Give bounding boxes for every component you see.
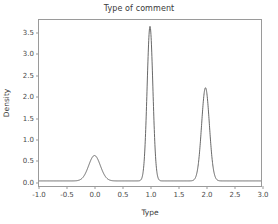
x-axis-label: Type [38, 208, 262, 217]
x-tick-mark [263, 186, 264, 189]
chart-title: Type of comment [0, 4, 278, 13]
x-tick-mark [151, 186, 152, 189]
x-tick-mark [179, 186, 180, 189]
y-tick-mark [36, 97, 39, 98]
y-tick-mark [36, 75, 39, 76]
x-tick-mark [235, 186, 236, 189]
y-tick-mark [36, 140, 39, 141]
y-tick-mark [36, 118, 39, 119]
x-tick-mark [207, 186, 208, 189]
y-axis-label: Density [2, 89, 11, 118]
density-plot-figure: Type of comment 0.00.51.01.52.02.53.03.5… [0, 0, 278, 224]
plot-area: 0.00.51.01.52.02.53.03.5 -1.0-0.50.00.51… [38, 19, 262, 187]
y-tick-mark [36, 32, 39, 33]
density-curve [39, 20, 261, 186]
y-tick-mark [36, 182, 39, 183]
y-tick-mark [36, 54, 39, 55]
x-tick-mark [67, 186, 68, 189]
x-tick-mark [95, 186, 96, 189]
x-tick-mark [123, 186, 124, 189]
y-tick-mark [36, 161, 39, 162]
x-tick-mark [39, 186, 40, 189]
